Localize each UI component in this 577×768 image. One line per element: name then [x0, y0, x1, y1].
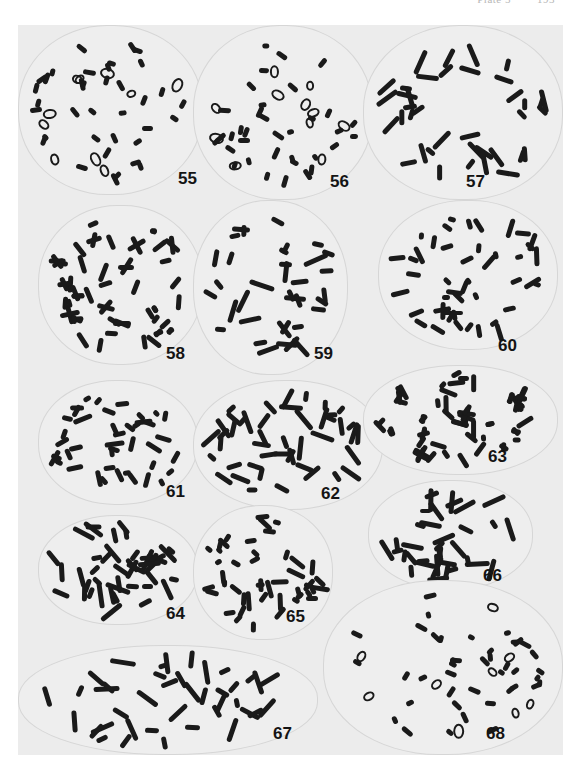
- chromosome: [105, 331, 118, 336]
- chromosome: [442, 294, 450, 299]
- metaphase-spread-55: [18, 25, 203, 195]
- metaphase-spread-65: [193, 505, 333, 640]
- figure-plate: 5556575859606162636465666768: [18, 25, 563, 755]
- chromosome: [435, 398, 441, 409]
- metaphase-spread-62: [193, 380, 383, 510]
- figure-label-67: 67: [273, 725, 292, 742]
- chromosome: [269, 65, 278, 78]
- chromosome: [350, 134, 358, 139]
- running-head-left: Plate 5: [477, 0, 511, 5]
- chromosome: [272, 451, 291, 456]
- running-head: Plate 5193: [477, 0, 555, 5]
- chromosome: [513, 437, 521, 442]
- metaphase-spread-63: [363, 365, 558, 475]
- chromosome: [472, 374, 477, 392]
- chromosome: [72, 314, 77, 323]
- chromosome: [437, 165, 442, 181]
- chromosome: [113, 321, 131, 326]
- chromosome: [523, 99, 528, 111]
- spread-outline: [363, 25, 563, 200]
- metaphase-spread-66: [368, 480, 533, 590]
- spread-outline: [323, 580, 563, 755]
- chromosome: [82, 584, 87, 602]
- chromosome: [215, 326, 226, 331]
- figure-label-59: 59: [314, 345, 333, 362]
- figure-label-58: 58: [166, 345, 185, 362]
- chromosome: [218, 435, 224, 451]
- chromosome: [145, 728, 159, 733]
- chromosome: [262, 44, 270, 49]
- chromosome: [320, 268, 334, 273]
- chromosome: [142, 126, 153, 131]
- chromosome: [126, 583, 139, 588]
- figure-label-62: 62: [321, 485, 340, 502]
- figure-label-65: 65: [286, 608, 305, 625]
- metaphase-spread-57: [363, 25, 563, 200]
- figure-label-68: 68: [486, 725, 505, 742]
- chromosome: [434, 554, 440, 577]
- chromosome: [238, 138, 250, 143]
- chromosome: [420, 509, 432, 514]
- chromosome: [259, 68, 269, 73]
- chromosome: [400, 109, 405, 125]
- chromosome: [142, 584, 153, 589]
- chromosome: [70, 406, 84, 411]
- chromosome: [247, 488, 258, 493]
- metaphase-spread-58: [38, 205, 203, 365]
- figure-label-61: 61: [166, 483, 185, 500]
- figure-label-60: 60: [498, 337, 517, 354]
- figure-label-56: 56: [330, 173, 349, 190]
- figure-label-63: 63: [488, 448, 507, 465]
- metaphase-spread-60: [378, 200, 558, 350]
- chromosome: [241, 225, 246, 237]
- chromosome: [408, 565, 414, 579]
- chromosome: [327, 412, 338, 417]
- chromosome: [310, 559, 316, 575]
- chromosome: [481, 434, 486, 442]
- figure-label-64: 64: [166, 605, 185, 622]
- running-head-page-number: 193: [537, 0, 555, 5]
- chromosome: [485, 700, 496, 705]
- metaphase-spread-68: [323, 580, 563, 755]
- figure-label-57: 57: [466, 173, 485, 190]
